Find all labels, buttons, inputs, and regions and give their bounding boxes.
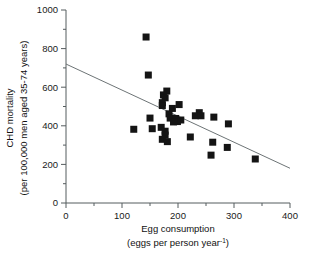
data-point-marker — [224, 144, 231, 151]
x-tick-label: 400 — [282, 210, 298, 221]
x-axis-title-line1: Egg consumption — [141, 223, 214, 234]
data-point-marker — [197, 112, 204, 119]
y-tick-label: 1000 — [37, 4, 58, 15]
y-tick-label: 400 — [42, 120, 58, 131]
data-point-marker — [187, 133, 194, 140]
data-point-marker — [176, 101, 183, 108]
data-point-marker — [170, 118, 177, 125]
chd-egg-consumption-scatter-figure: 020040060080010000100200300400 CHD morta… — [0, 0, 311, 260]
data-point-marker — [143, 34, 150, 41]
data-point-marker — [208, 152, 215, 159]
x-tick-label: 100 — [114, 210, 130, 221]
y-axis-title-line2: (per 100,000 men aged 35-74 years) — [18, 41, 29, 196]
y-tick-label: 200 — [42, 159, 58, 170]
y-axis-title: CHD mortality (per 100,000 men aged 35-7… — [4, 41, 29, 196]
data-point-marker — [209, 139, 216, 146]
data-point-marker — [164, 138, 171, 145]
y-tick-label: 800 — [42, 43, 58, 54]
data-point-marker — [149, 125, 156, 132]
data-point-marker — [145, 72, 152, 79]
x-axis-title: Egg consumption (eggs per person year-1) — [127, 223, 229, 248]
data-point-marker — [147, 115, 154, 122]
scatter-plot: 020040060080010000100200300400 CHD morta… — [0, 0, 311, 260]
data-point-marker — [252, 155, 259, 162]
data-point-marker — [130, 126, 137, 133]
y-axis-title-line1: CHD mortality — [4, 88, 15, 147]
y-tick-label: 0 — [53, 197, 58, 208]
data-points — [130, 34, 259, 163]
data-point-marker — [225, 120, 232, 127]
x-tick-label: 300 — [226, 210, 242, 221]
x-axis-title-line2: (eggs per person year-1) — [127, 237, 229, 249]
x-tick-label: 0 — [63, 210, 68, 221]
data-point-marker — [159, 102, 166, 109]
y-tick-label: 600 — [42, 82, 58, 93]
x-tick-label: 200 — [170, 210, 186, 221]
data-point-marker — [210, 114, 217, 121]
